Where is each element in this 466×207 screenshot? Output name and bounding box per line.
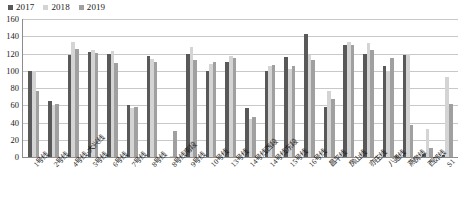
x-axis-label: S1 [446, 158, 457, 169]
bar-2019 [252, 117, 256, 157]
x-label-cell: 燕房线 [398, 157, 418, 207]
bar-series-container [22, 19, 458, 157]
bar-2019 [55, 104, 59, 157]
y-axis-tick: 80 [11, 83, 20, 93]
grouped-bar-chart: 201720182019 020406080100120140160 1号线2号… [0, 0, 466, 207]
bar-group [300, 19, 320, 157]
bar-2019 [114, 63, 118, 157]
x-label-cell: 1号线 [24, 157, 44, 207]
bar-2019 [370, 50, 374, 157]
bar-group [260, 19, 280, 157]
legend-label: 2019 [87, 3, 105, 12]
bar-2019 [213, 62, 217, 157]
x-label-cell: 13号线 [221, 157, 241, 207]
bar-group [201, 19, 221, 157]
y-axis-tick: 100 [6, 66, 19, 76]
x-label-cell: 9号线 [182, 157, 202, 207]
bar-group [398, 19, 418, 157]
bar-2019 [36, 91, 40, 157]
bar-2019 [449, 104, 453, 157]
x-label-cell: 6号线 [103, 157, 123, 207]
x-label-cell: 4号线·大兴线 [63, 157, 83, 207]
x-label-cell: 5号线 [83, 157, 103, 207]
bar-2019 [173, 131, 177, 157]
bar-2019 [75, 49, 79, 157]
bar-group [44, 19, 64, 157]
legend-swatch-icon [8, 5, 13, 10]
x-label-cell: 10号线 [201, 157, 221, 207]
y-axis-tick: 120 [6, 49, 19, 59]
bar-group [162, 19, 182, 157]
bar-2019 [154, 62, 158, 157]
bar-group [437, 19, 457, 157]
bar-2019 [134, 107, 138, 157]
bar-2019 [233, 58, 237, 157]
y-axis-tick: 20 [11, 135, 20, 145]
legend-swatch-icon [43, 5, 48, 10]
bar-group [63, 19, 83, 157]
y-axis-tick: 160 [6, 14, 19, 24]
x-label-cell: 8号线南段 [162, 157, 182, 207]
bar-group [339, 19, 359, 157]
bar-2019 [410, 125, 414, 157]
x-axis-category-labels: 1号线2号线4号线·大兴线5号线6号线7号线8号线8号线南段9号线10号线13号… [22, 157, 458, 207]
chart-legend: 201720182019 [8, 3, 105, 12]
plot-area [22, 19, 458, 157]
bar-group [182, 19, 202, 157]
legend-item-2019: 2019 [79, 3, 105, 12]
legend-item-2017: 2017 [8, 3, 34, 12]
x-label-cell: 7号线 [122, 157, 142, 207]
x-label-cell: 2号线 [44, 157, 64, 207]
x-label-cell: S1 [437, 157, 457, 207]
bar-2019 [351, 45, 355, 157]
x-label-cell: 15号线 [280, 157, 300, 207]
bar-2019 [390, 58, 394, 157]
legend-swatch-icon [79, 5, 84, 10]
y-axis-tick: 60 [11, 100, 20, 110]
bar-group [103, 19, 123, 157]
legend-label: 2018 [51, 3, 69, 12]
x-label-cell: 西郊线 [418, 157, 438, 207]
x-label-cell: 14号线西段 [241, 157, 261, 207]
bar-group [24, 19, 44, 157]
bar-group [378, 19, 398, 157]
x-label-cell: 昌平线 [319, 157, 339, 207]
bar-group [359, 19, 379, 157]
x-label-cell: 房山线 [339, 157, 359, 207]
bar-group [142, 19, 162, 157]
bar-group [280, 19, 300, 157]
legend-label: 2017 [16, 3, 34, 12]
bar-2019 [331, 99, 335, 157]
bar-group [241, 19, 261, 157]
y-axis-tick: 0 [15, 152, 19, 162]
bar-group [418, 19, 438, 157]
y-axis-tick: 40 [11, 118, 20, 128]
legend-item-2018: 2018 [43, 3, 69, 12]
x-label-cell: 14号线东段 [260, 157, 280, 207]
x-label-cell: 8号线 [142, 157, 162, 207]
bar-group [122, 19, 142, 157]
y-axis-tick: 140 [6, 31, 19, 41]
bar-group [319, 19, 339, 157]
y-axis-tick-labels: 020406080100120140160 [0, 19, 22, 157]
x-label-cell: 八通线 [378, 157, 398, 207]
x-label-cell: 16号线 [300, 157, 320, 207]
bar-2019 [311, 60, 315, 157]
x-label-cell: 亦庄线 [359, 157, 379, 207]
bar-group [221, 19, 241, 157]
